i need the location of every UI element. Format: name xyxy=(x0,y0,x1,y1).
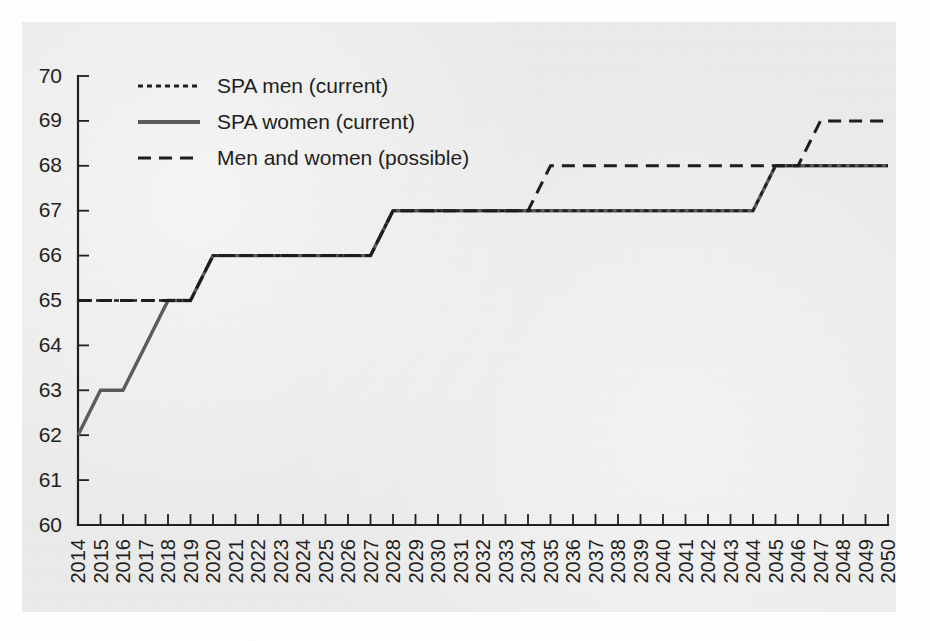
x-axis-tick-label: 2024 xyxy=(292,539,314,584)
y-axis-tick-label: 60 xyxy=(39,513,62,536)
line-chart-plot: 6061626364656667686970 20142015201620172… xyxy=(0,0,929,641)
chart-legend: SPA men (current)SPA women (current)Men … xyxy=(138,74,469,169)
legend-entry-label: SPA men (current) xyxy=(217,74,388,97)
x-axis-tick-label: 2028 xyxy=(382,539,404,584)
x-axis-tick-label: 2036 xyxy=(562,539,584,584)
y-axis-tick-label: 64 xyxy=(39,333,63,356)
y-axis-tick-label: 65 xyxy=(39,288,62,311)
x-axis-tick-label: 2040 xyxy=(652,539,674,584)
x-axis-tick-label: 2025 xyxy=(315,539,337,584)
x-axis-tick-label: 2043 xyxy=(720,539,742,584)
y-axis-tick-label: 62 xyxy=(39,423,62,446)
x-axis xyxy=(78,514,888,525)
x-axis-tick-label: 2037 xyxy=(585,539,607,584)
y-axis-tick-label: 69 xyxy=(39,108,62,131)
x-axis-tick-label: 2029 xyxy=(405,539,427,584)
x-axis-tick-label: 2045 xyxy=(765,539,787,584)
y-axis-tick-label: 70 xyxy=(39,64,62,87)
x-axis-tick-label: 2019 xyxy=(180,539,202,584)
y-axis-tick-label: 68 xyxy=(39,153,62,176)
x-axis-tick-label: 2034 xyxy=(517,539,539,584)
x-axis-tick-label: 2033 xyxy=(495,539,517,584)
series-line-spa-women-current xyxy=(78,166,888,435)
legend-entry-label: SPA women (current) xyxy=(217,110,415,133)
y-axis-tick-label: 63 xyxy=(39,378,62,401)
x-axis-tick-label: 2044 xyxy=(742,539,764,584)
x-axis-tick-label: 2018 xyxy=(157,539,179,584)
x-axis-tick-label: 2027 xyxy=(360,539,382,584)
x-axis-tick-label: 2026 xyxy=(337,539,359,584)
y-axis-tick-labels: 6061626364656667686970 xyxy=(39,64,63,536)
x-axis-tick-label: 2030 xyxy=(427,539,449,584)
x-axis-tick-label: 2022 xyxy=(247,539,269,584)
x-axis-tick-label: 2021 xyxy=(225,539,247,584)
chart-root: 6061626364656667686970 20142015201620172… xyxy=(0,0,929,641)
legend-entry-label: Men and women (possible) xyxy=(217,146,469,169)
y-axis-tick-label: 61 xyxy=(39,468,62,491)
x-axis-tick-label: 2014 xyxy=(67,539,89,584)
y-axis-tick-label: 67 xyxy=(39,198,62,221)
x-axis-tick-label: 2015 xyxy=(90,539,112,584)
x-axis-tick-label: 2020 xyxy=(202,539,224,584)
x-axis-tick-label: 2050 xyxy=(877,539,899,584)
x-axis-tick-label: 2031 xyxy=(450,539,472,584)
x-axis-tick-label: 2038 xyxy=(607,539,629,584)
y-axis-tick-label: 66 xyxy=(39,243,62,266)
x-axis-tick-label: 2039 xyxy=(630,539,652,584)
x-axis-tick-label: 2049 xyxy=(855,539,877,584)
data-series-group xyxy=(78,121,888,435)
x-axis-tick-label: 2047 xyxy=(810,539,832,584)
x-axis-tick-label: 2042 xyxy=(697,539,719,584)
x-axis-tick-label: 2023 xyxy=(270,539,292,584)
x-axis-tick-label: 2016 xyxy=(112,539,134,584)
x-axis-tick-label: 2046 xyxy=(787,539,809,584)
x-axis-tick-label: 2035 xyxy=(540,539,562,584)
x-axis-tick-labels: 2014201520162017201820192020202120222023… xyxy=(67,539,899,584)
x-axis-tick-label: 2041 xyxy=(675,539,697,584)
x-axis-tick-label: 2032 xyxy=(472,539,494,584)
x-axis-tick-label: 2017 xyxy=(135,539,157,584)
x-axis-tick-label: 2048 xyxy=(832,539,854,584)
